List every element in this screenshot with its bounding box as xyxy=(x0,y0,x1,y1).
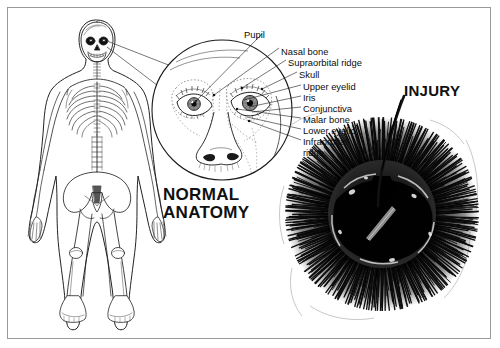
anatomy-label: Nasal bone xyxy=(281,47,328,57)
skull xyxy=(81,22,113,62)
caption-normal-anatomy: NORMAL ANATOMY xyxy=(163,186,249,222)
anatomy-label: Infraorbital xyxy=(303,137,347,147)
anatomy-label: Malar bone xyxy=(303,115,350,125)
anatomy-label: Supraorbital ridge xyxy=(288,58,362,68)
anatomy-label: Conjunctiva xyxy=(303,104,352,114)
anatomy-label: Iris xyxy=(303,93,316,103)
caption-injury: INJURY xyxy=(404,83,460,99)
skeleton-figure xyxy=(28,20,166,330)
anatomy-label: Pupil xyxy=(244,30,265,40)
anatomy-label: Upper eyelid xyxy=(303,82,356,92)
figure-root: PupilNasal boneSupraorbital ridgeSkullUp… xyxy=(0,0,500,348)
feet xyxy=(60,296,134,322)
anatomy-label: ridge xyxy=(303,148,324,158)
anatomy-label: Skull xyxy=(299,70,319,80)
anatomy-label: Lower eyelid xyxy=(303,126,356,136)
illustration-artwork xyxy=(0,0,500,348)
